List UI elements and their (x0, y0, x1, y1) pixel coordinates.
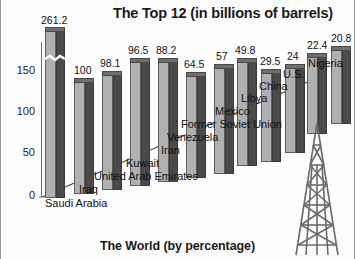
bar-face-left (74, 82, 85, 194)
bottom-caption: The World (by percentage) (1, 239, 354, 253)
bar-face-top (261, 69, 281, 74)
cat-label-united-arab-emirates: United Arab Emirates (94, 170, 198, 182)
bar-iran[interactable] (158, 62, 178, 182)
bar-face-top (102, 71, 122, 76)
y-tick-150: 150 (9, 64, 35, 76)
cat-label-us: U.S. (283, 68, 304, 80)
chart-figure: The Top 12 (in billions of barrels) 150 … (0, 0, 355, 259)
cat-label-iraq: Iraq (79, 183, 98, 195)
oil-derrick-icon (286, 119, 348, 259)
cat-label-nigeria: Nigeria (308, 57, 343, 69)
bar-face-top (237, 58, 257, 63)
y-axis-line (41, 42, 42, 197)
bar-face-top (186, 72, 206, 77)
bar-face-right (169, 62, 178, 182)
y-tick-100: 100 (9, 105, 35, 117)
bar-face-top (130, 58, 150, 63)
bar-value-iran: 88.2 (156, 44, 176, 56)
bar-value-us: 22.4 (307, 39, 327, 51)
bar-iraq[interactable] (74, 82, 94, 194)
cat-label-mexico: Mexico (215, 105, 250, 117)
cat-label-saudi-arabia: Saudi Arabia (45, 197, 107, 209)
bar-face-right (85, 82, 94, 194)
bar-face-top (45, 27, 65, 32)
bar-value-libya: 29.5 (260, 55, 280, 67)
bar-face-right (342, 50, 351, 124)
cat-label-libya: Libya (241, 92, 267, 104)
bar-face-right (56, 31, 65, 198)
bar-face-top (214, 64, 234, 69)
bar-value-saudi-arabia: 261.2 (41, 14, 67, 26)
cat-label-kuwait: Kuwait (126, 157, 159, 169)
bar-value-iraq: 100 (74, 64, 92, 76)
bar-value-venezuela: 64.5 (184, 58, 204, 70)
bar-saudi-arabia[interactable] (45, 31, 65, 198)
bar-value-china: 24 (287, 50, 299, 62)
bar-face-left (45, 31, 56, 198)
bar-value-nigeria: 20.8 (331, 32, 351, 44)
cat-label-china: China (259, 80, 288, 92)
bar-value-united-arab-emirates: 98.1 (100, 57, 120, 69)
bar-value-former-soviet-union: 57 (216, 50, 228, 62)
bar-face-top (158, 58, 178, 63)
bar-value-kuwait: 96.5 (128, 44, 148, 56)
y-tick-50: 50 (9, 146, 35, 158)
bar-face-left (158, 62, 169, 182)
bar-value-mexico: 49.8 (235, 44, 255, 56)
cat-label-former-soviet-union: Former Soviet Union (181, 118, 282, 130)
bar-face-top (331, 46, 351, 51)
bar-face-top (74, 78, 94, 83)
y-tick-0: 0 (9, 189, 35, 201)
cat-label-iran: Iran (161, 144, 180, 156)
cat-label-venezuela: Venezuela (167, 131, 218, 143)
